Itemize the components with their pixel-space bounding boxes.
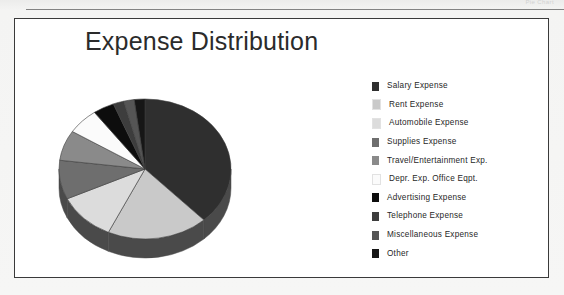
pie-chart <box>51 81 247 261</box>
legend-swatch <box>372 138 379 147</box>
legend-swatch <box>372 231 379 240</box>
page-top-caption: Pie Chart <box>525 0 554 5</box>
legend-swatch <box>372 156 379 165</box>
legend-item-label: Supplies Expense <box>387 138 457 146</box>
legend-item[interactable]: Depr. Exp. Office Eqpt. <box>372 170 547 189</box>
legend-item[interactable]: Travel/Entertainment Exp. <box>372 151 547 170</box>
legend-item-label: Rent Expense <box>389 101 443 109</box>
chart-legend: Salary ExpenseRent ExpenseAutomobile Exp… <box>372 77 547 263</box>
legend-swatch <box>372 249 379 258</box>
legend-item-label: Other <box>387 250 409 258</box>
page-top-rule <box>26 9 564 10</box>
legend-item[interactable]: Salary Expense <box>372 77 547 96</box>
pie-slices-group <box>59 99 231 239</box>
legend-swatch <box>372 82 379 91</box>
legend-item[interactable]: Advertising Expense <box>372 189 547 208</box>
legend-item[interactable]: Other <box>372 244 547 263</box>
legend-swatch <box>372 212 379 221</box>
chart-title: Expense Distribution <box>85 27 318 56</box>
legend-item-label: Telephone Expense <box>387 212 463 220</box>
pie-chart-svg <box>51 81 247 261</box>
legend-item[interactable]: Telephone Expense <box>372 207 547 226</box>
legend-item-label: Salary Expense <box>387 82 448 90</box>
legend-item[interactable]: Supplies Expense <box>372 133 547 152</box>
legend-item[interactable]: Automobile Expense <box>372 114 547 133</box>
legend-swatch <box>372 118 381 129</box>
legend-item[interactable]: Miscellaneous Expense <box>372 226 547 245</box>
legend-item-label: Automobile Expense <box>389 119 469 127</box>
legend-item-label: Travel/Entertainment Exp. <box>387 157 488 165</box>
legend-item-label: Depr. Exp. Office Eqpt. <box>389 175 478 183</box>
legend-swatch <box>372 174 381 185</box>
legend-item-label: Advertising Expense <box>387 194 466 202</box>
chart-frame: Expense Distribution Salary ExpenseRent … <box>14 18 549 278</box>
legend-item-label: Miscellaneous Expense <box>387 231 478 239</box>
legend-item[interactable]: Rent Expense <box>372 96 547 115</box>
legend-swatch <box>372 99 381 110</box>
legend-swatch <box>372 193 379 202</box>
